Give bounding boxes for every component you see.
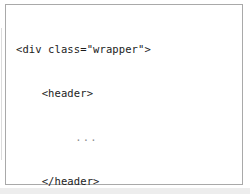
code-line: <header> [16, 86, 238, 101]
scan-edge-left [1, 28, 2, 160]
scan-edge-bottom [0, 188, 250, 194]
code-line-ellipsis: ... [16, 130, 238, 145]
code-line: <div class="wrapper"> [16, 42, 238, 57]
code-line: </header> [16, 174, 238, 189]
code-listing: <div class="wrapper"> <header> ... </hea… [16, 13, 238, 182]
code-frame-border: <div class="wrapper"> <header> ... </hea… [5, 4, 243, 185]
code-figure: <div class="wrapper"> <header> ... </hea… [0, 0, 250, 194]
